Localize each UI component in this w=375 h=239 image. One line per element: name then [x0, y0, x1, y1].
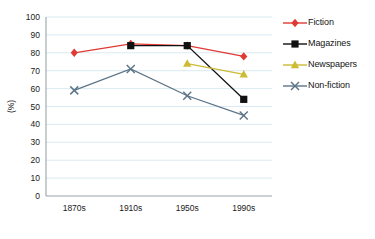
- triangle-marker-icon: [282, 58, 308, 72]
- x-tick-label: 1950s: [176, 203, 199, 213]
- y-tick-label: 70: [31, 66, 41, 76]
- diamond-marker-icon: [282, 16, 308, 30]
- series-fiction: [71, 40, 248, 61]
- data-point-marker: [127, 42, 134, 49]
- y-axis-title: (%): [6, 100, 16, 113]
- data-point-marker: [240, 111, 248, 119]
- data-point-marker: [183, 92, 191, 100]
- legend-item-label: Magazines: [308, 39, 351, 48]
- legend-item-non-fiction[interactable]: Non-fiction: [282, 75, 375, 96]
- y-tick-label: 100: [26, 12, 40, 22]
- y-tick-label: 60: [31, 84, 41, 94]
- x-tick-label: 1910s: [119, 203, 142, 213]
- gridlines: [46, 17, 272, 178]
- x-tick-label: 1870s: [63, 203, 86, 213]
- data-point-marker: [183, 59, 191, 67]
- y-tick-label: 0: [35, 191, 40, 201]
- legend-item-label: Non-fiction: [308, 81, 350, 90]
- series-non-fiction: [70, 65, 248, 120]
- y-tick-label: 20: [31, 155, 41, 165]
- y-tick-label: 90: [31, 30, 41, 40]
- y-axis-title: (%): [6, 100, 16, 113]
- chart-root: 0102030405060708090100 1870s1910s1950s19…: [0, 0, 375, 239]
- y-axis-tick-labels: 0102030405060708090100: [26, 12, 40, 201]
- y-tick-label: 30: [31, 137, 41, 147]
- y-tick-label: 80: [31, 48, 41, 58]
- data-point-marker: [71, 49, 78, 57]
- legend-item-magazines[interactable]: Magazines: [282, 33, 375, 54]
- y-tick-label: 10: [31, 173, 41, 183]
- series-magazines: [127, 42, 247, 103]
- legend-item-label: Fiction: [308, 18, 334, 27]
- data-point-marker: [240, 96, 247, 103]
- x-axis-tick-labels: 1870s1910s1950s1990s: [63, 203, 256, 213]
- data-point-marker: [127, 65, 135, 73]
- legend-item-fiction[interactable]: Fiction: [282, 12, 375, 33]
- x-marker-icon: [282, 79, 308, 93]
- data-series: [70, 40, 248, 120]
- y-tick-label: 50: [31, 102, 41, 112]
- chart-legend: FictionMagazinesNewspapersNon-fiction: [282, 12, 375, 96]
- legend-item-label: Newspapers: [308, 60, 357, 69]
- series-newspapers: [183, 59, 248, 77]
- data-point-marker: [240, 52, 247, 60]
- legend-item-newspapers[interactable]: Newspapers: [282, 54, 375, 75]
- data-point-marker: [184, 42, 191, 49]
- square-marker-icon: [282, 37, 308, 51]
- x-tick-label: 1990s: [232, 203, 255, 213]
- data-point-marker: [70, 86, 78, 94]
- y-tick-label: 40: [31, 119, 41, 129]
